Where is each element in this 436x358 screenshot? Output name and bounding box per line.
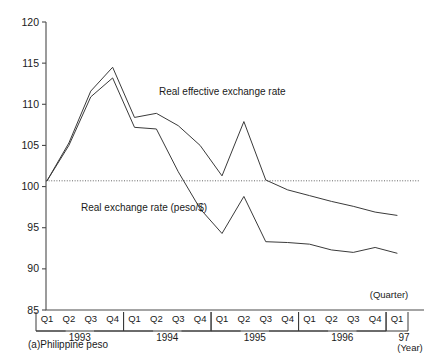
x-axis-quarter-label: Q4 <box>106 313 119 324</box>
x-axis-quarter-label: Q1 <box>391 313 404 324</box>
y-axis-tick-label: 115 <box>22 57 39 69</box>
x-axis-quarter-label: Q3 <box>347 313 360 324</box>
y-axis-tick-label: 85 <box>27 304 39 316</box>
y-axis-tick-label: 100 <box>21 180 39 192</box>
y-axis-tick-label: 105 <box>21 139 39 151</box>
series-line-2 <box>47 78 397 253</box>
x-axis-quarter-label: Q4 <box>194 313 207 324</box>
y-axis-tick-label: 110 <box>22 98 39 110</box>
x-axis-quarter-label: Q1 <box>128 313 141 324</box>
x-axis-year-label: 1995 <box>244 332 267 343</box>
x-axis-quarter-label: Q2 <box>238 313 251 324</box>
x-axis-quarter-label: Q4 <box>369 313 382 324</box>
x-axis-quarter-label: Q3 <box>84 313 97 324</box>
exchange-rate-line-chart: 859095100105110115120 Real effective exc… <box>0 0 436 358</box>
y-axis-tick-label: 95 <box>27 221 39 233</box>
series-label-2: Real exchange rate (peso/$) <box>81 202 207 213</box>
x-axis-year-caption: (Year) <box>397 342 423 353</box>
x-axis-quarter-label: Q2 <box>325 313 338 324</box>
x-axis-quarter-label: Q1 <box>303 313 316 324</box>
y-axis: 859095100105110115120 <box>21 16 424 316</box>
y-axis-tick-label: 120 <box>21 16 39 28</box>
x-axis-quarter-label: Q2 <box>150 313 163 324</box>
x-axis-quarter-label: Q3 <box>172 313 185 324</box>
x-axis-quarter-label: Q1 <box>41 313 54 324</box>
x-axis-year-label: 1994 <box>156 332 179 343</box>
y-axis-tick-label: 90 <box>27 262 39 274</box>
chart-footnote: (a)Philippine peso <box>28 339 108 350</box>
x-axis-quarter-label: Q1 <box>216 313 229 324</box>
series-annotations: Real effective exchange rateReal exchang… <box>81 86 286 213</box>
x-axis-quarter-label: Q4 <box>281 313 294 324</box>
x-axis-quarter-caption: (Quarter) <box>370 289 409 300</box>
x-axis-quarter-label: Q3 <box>259 313 272 324</box>
x-axis-year-label: 1996 <box>331 332 354 343</box>
chart-container: 859095100105110115120 Real effective exc… <box>0 0 436 358</box>
series-label-1: Real effective exchange rate <box>159 86 286 97</box>
x-axis-quarter-label: Q2 <box>63 313 76 324</box>
